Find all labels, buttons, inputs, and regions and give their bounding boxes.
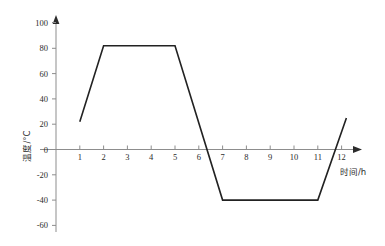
temperature-data-line — [80, 46, 347, 200]
temperature-time-chart: 100 80 60 40 20 0 -20 -40 -60 — [0, 0, 385, 246]
y-tick-label-neg20: -20 — [37, 170, 48, 180]
y-axis-tick-labels: 100 80 60 40 20 0 -20 -40 -60 — [35, 18, 48, 231]
x-axis-tick-labels: 1 2 3 4 5 6 7 8 9 10 11 12 — [78, 152, 346, 162]
y-axis — [53, 15, 60, 232]
x-axis-arrow-icon — [353, 146, 362, 153]
y-tick-label-neg40: -40 — [37, 195, 48, 205]
x-tick-label-4: 4 — [149, 152, 154, 162]
x-axis-title: 时间/h — [340, 167, 366, 177]
y-axis-title: 温度/°C — [22, 130, 32, 161]
y-tick-label-20: 20 — [40, 119, 49, 129]
y-tick-label-100: 100 — [35, 18, 48, 28]
x-tick-label-12: 12 — [337, 152, 346, 162]
x-tick-label-9: 9 — [268, 152, 272, 162]
y-tick-label-0: 0 — [44, 145, 48, 155]
x-tick-label-10: 10 — [290, 152, 299, 162]
x-tick-label-11: 11 — [314, 152, 322, 162]
y-axis-ticks — [52, 23, 56, 226]
x-tick-label-5: 5 — [173, 152, 177, 162]
x-tick-label-2: 2 — [101, 152, 105, 162]
chart-svg: 100 80 60 40 20 0 -20 -40 -60 — [0, 0, 385, 246]
x-tick-label-8: 8 — [244, 152, 248, 162]
x-tick-label-1: 1 — [78, 152, 82, 162]
y-tick-label-neg60: -60 — [37, 220, 48, 230]
x-axis-ticks — [80, 146, 342, 150]
x-tick-label-6: 6 — [197, 152, 201, 162]
x-tick-label-3: 3 — [125, 152, 129, 162]
y-tick-label-40: 40 — [40, 94, 49, 104]
y-tick-label-80: 80 — [40, 43, 49, 53]
x-tick-label-7: 7 — [220, 152, 224, 162]
y-tick-label-60: 60 — [40, 69, 49, 79]
